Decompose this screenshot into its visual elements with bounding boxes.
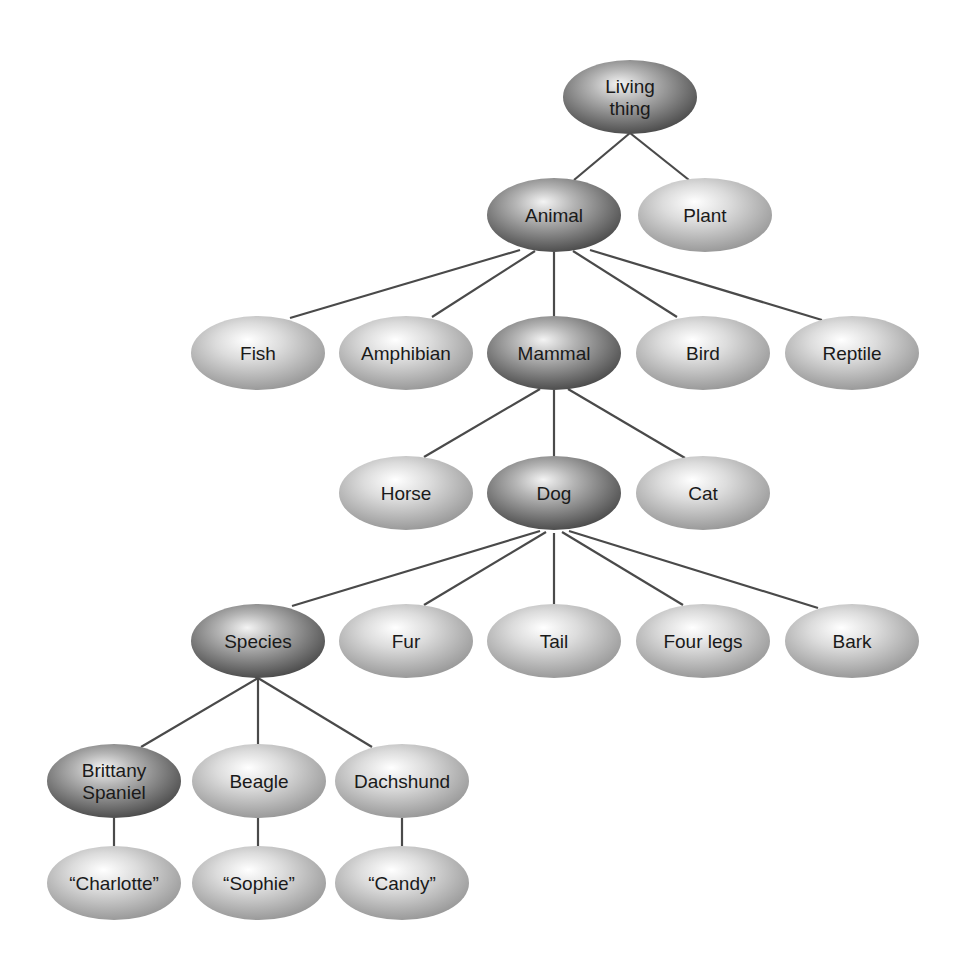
edge-dog-to-species bbox=[292, 531, 540, 606]
node-fur: Fur bbox=[339, 604, 473, 678]
node-label: Four legs bbox=[663, 631, 742, 652]
node-label: “Candy” bbox=[368, 873, 436, 894]
node-sophie: “Sophie” bbox=[192, 846, 326, 920]
node-label: Animal bbox=[525, 205, 583, 226]
node-bark: Bark bbox=[785, 604, 919, 678]
edge-species-to-brittany-spaniel bbox=[141, 678, 258, 747]
node-label: Dachshund bbox=[354, 771, 450, 792]
node-tail: Tail bbox=[487, 604, 621, 678]
node-label: Reptile bbox=[822, 343, 881, 364]
node-amphibian: Amphibian bbox=[339, 316, 473, 390]
node-charlotte: “Charlotte” bbox=[47, 846, 181, 920]
node-label: Bark bbox=[832, 631, 872, 652]
edge-living-thing-to-animal bbox=[574, 133, 630, 180]
node-label: Tail bbox=[540, 631, 569, 652]
node-label: Living bbox=[605, 76, 655, 97]
node-dog: Dog bbox=[487, 456, 621, 530]
node-label: Mammal bbox=[518, 343, 591, 364]
edge-living-thing-to-plant bbox=[630, 133, 689, 180]
node-bird: Bird bbox=[636, 316, 770, 390]
node-label: Species bbox=[224, 631, 292, 652]
node-layer: LivingthingAnimalPlantFishAmphibianMamma… bbox=[47, 60, 919, 920]
node-label: Fish bbox=[240, 343, 276, 364]
edge-mammal-to-cat bbox=[568, 389, 685, 458]
node-candy: “Candy” bbox=[335, 846, 469, 920]
node-label: “Charlotte” bbox=[69, 873, 159, 894]
node-species: Species bbox=[191, 604, 325, 678]
edge-dog-to-fur bbox=[424, 532, 546, 605]
node-label: Horse bbox=[381, 483, 432, 504]
node-label: Brittany bbox=[82, 760, 147, 781]
edge-mammal-to-horse bbox=[424, 389, 540, 457]
node-animal: Animal bbox=[487, 178, 621, 252]
node-label: “Sophie” bbox=[223, 873, 295, 894]
node-fish: Fish bbox=[191, 316, 325, 390]
node-mammal: Mammal bbox=[487, 316, 621, 390]
node-label: Cat bbox=[688, 483, 718, 504]
node-label: Spaniel bbox=[82, 782, 145, 803]
node-brittany-spaniel: BrittanySpaniel bbox=[47, 744, 181, 818]
node-ellipse bbox=[47, 744, 181, 818]
node-label: Plant bbox=[683, 205, 727, 226]
node-label: Fur bbox=[392, 631, 421, 652]
node-cat: Cat bbox=[636, 456, 770, 530]
node-living-thing: Livingthing bbox=[563, 60, 697, 134]
node-horse: Horse bbox=[339, 456, 473, 530]
node-dachshund: Dachshund bbox=[335, 744, 469, 818]
edge-species-to-dachshund bbox=[258, 678, 372, 747]
node-label: thing bbox=[609, 98, 650, 119]
node-label: Dog bbox=[537, 483, 572, 504]
node-plant: Plant bbox=[638, 178, 772, 252]
node-four-legs: Four legs bbox=[636, 604, 770, 678]
node-beagle: Beagle bbox=[192, 744, 326, 818]
edge-dog-to-four-legs bbox=[562, 532, 683, 605]
node-label: Beagle bbox=[229, 771, 288, 792]
node-ellipse bbox=[563, 60, 697, 134]
hierarchy-diagram: LivingthingAnimalPlantFishAmphibianMamma… bbox=[0, 0, 958, 967]
node-reptile: Reptile bbox=[785, 316, 919, 390]
edge-dog-to-bark bbox=[569, 531, 818, 608]
node-label: Bird bbox=[686, 343, 720, 364]
node-label: Amphibian bbox=[361, 343, 451, 364]
